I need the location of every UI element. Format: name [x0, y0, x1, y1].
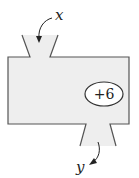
operation-label: +6: [94, 86, 115, 102]
function-machine-diagram: +6 x y: [0, 0, 139, 178]
output-label: y: [75, 158, 85, 176]
input-label: x: [55, 6, 64, 24]
